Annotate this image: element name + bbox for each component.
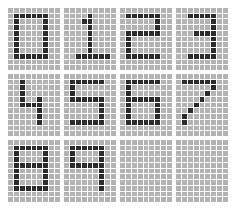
pixel-cell	[205, 85, 210, 90]
pixel-cell	[64, 114, 69, 119]
pixel-cell	[49, 14, 54, 19]
pixel-cell	[161, 42, 166, 47]
pixel-cell	[144, 80, 149, 85]
pixel-cell	[64, 14, 69, 19]
pixel-cell	[144, 186, 149, 191]
pixel-cell	[144, 31, 149, 36]
pixel-cell	[82, 151, 87, 156]
pixel-cell	[126, 74, 131, 79]
pixel-cell	[20, 108, 25, 113]
pixel-cell	[211, 108, 216, 113]
pixel-cell	[149, 157, 154, 162]
pixel-cell	[176, 174, 181, 179]
pixel-cell	[120, 197, 125, 202]
pixel-cell	[167, 169, 172, 174]
pixel-cell	[138, 140, 143, 145]
pixel-cell	[144, 163, 149, 168]
pixel-cell	[105, 174, 110, 179]
pixel-cell	[161, 14, 166, 19]
pixel-cell	[126, 8, 131, 13]
pixel-cell	[111, 14, 116, 19]
pixel-cell	[99, 120, 104, 125]
pixel-cell	[14, 174, 19, 179]
pixel-cell	[8, 180, 13, 185]
pixel-cell	[217, 97, 222, 102]
pixel-cell	[111, 80, 116, 85]
pixel-cell	[155, 74, 160, 79]
pixel-cell	[20, 157, 25, 162]
pixel-cell	[205, 97, 210, 102]
pixel-cell	[132, 108, 137, 113]
pixel-cell	[105, 131, 110, 136]
pixel-cell	[126, 140, 131, 145]
pixel-cell	[26, 37, 31, 42]
pixel-cell	[194, 169, 199, 174]
pixel-cell	[223, 180, 228, 185]
pixel-cell	[8, 37, 13, 42]
pixel-cell	[138, 42, 143, 47]
pixel-cell	[8, 169, 13, 174]
pixel-cell	[70, 8, 75, 13]
pixel-cell	[55, 114, 60, 119]
pixel-cell	[223, 151, 228, 156]
pixel-cell	[43, 180, 48, 185]
pixel-cell	[14, 140, 19, 145]
pixel-cell	[223, 126, 228, 131]
pixel-cell	[120, 131, 125, 136]
pixel-cell	[182, 174, 187, 179]
pixel-cell	[43, 48, 48, 53]
pixel-cell	[138, 174, 143, 179]
digit-four	[8, 74, 60, 136]
pixel-cell	[8, 60, 13, 65]
pixel-cell	[76, 60, 81, 65]
pixel-cell	[211, 131, 216, 136]
pixel-cell	[8, 31, 13, 36]
pixel-cell	[8, 126, 13, 131]
pixel-cell	[217, 140, 222, 145]
pixel-cell	[205, 174, 210, 179]
pixel-cell	[88, 54, 93, 59]
pixel-cell	[93, 163, 98, 168]
pixel-cell	[211, 163, 216, 168]
pixel-cell	[105, 74, 110, 79]
pixel-cell	[155, 174, 160, 179]
pixel-cell	[161, 146, 166, 151]
pixel-cell	[144, 146, 149, 151]
pixel-cell	[200, 25, 205, 30]
pixel-cell	[32, 31, 37, 36]
pixel-cell	[223, 80, 228, 85]
pixel-cell	[144, 19, 149, 24]
pixel-cell	[138, 91, 143, 96]
pixel-cell	[14, 131, 19, 136]
pixel-cell	[188, 126, 193, 131]
pixel-cell	[126, 108, 131, 113]
pixel-cell	[26, 14, 31, 19]
pixel-cell	[120, 180, 125, 185]
pixel-cell	[167, 85, 172, 90]
digit-eight	[8, 140, 60, 202]
pixel-cell	[37, 192, 42, 197]
pixel-cell	[88, 74, 93, 79]
pixel-cell	[105, 108, 110, 113]
pixel-cell	[161, 131, 166, 136]
pixel-cell	[182, 48, 187, 53]
pixel-cell	[93, 74, 98, 79]
pixel-cell	[82, 25, 87, 30]
pixel-cell	[43, 74, 48, 79]
pixel-cell	[205, 19, 210, 24]
pixel-cell	[99, 60, 104, 65]
pixel-cell	[70, 65, 75, 70]
pixel-cell	[76, 37, 81, 42]
pixel-cell	[188, 180, 193, 185]
pixel-cell	[126, 186, 131, 191]
pixel-cell	[182, 197, 187, 202]
pixel-cell	[182, 74, 187, 79]
pixel-cell	[138, 180, 143, 185]
pixel-cell	[105, 140, 110, 145]
pixel-cell	[99, 74, 104, 79]
pixel-cell	[49, 74, 54, 79]
pixel-cell	[200, 60, 205, 65]
pixel-cell	[111, 60, 116, 65]
pixel-cell	[200, 19, 205, 24]
pixel-cell	[188, 151, 193, 156]
